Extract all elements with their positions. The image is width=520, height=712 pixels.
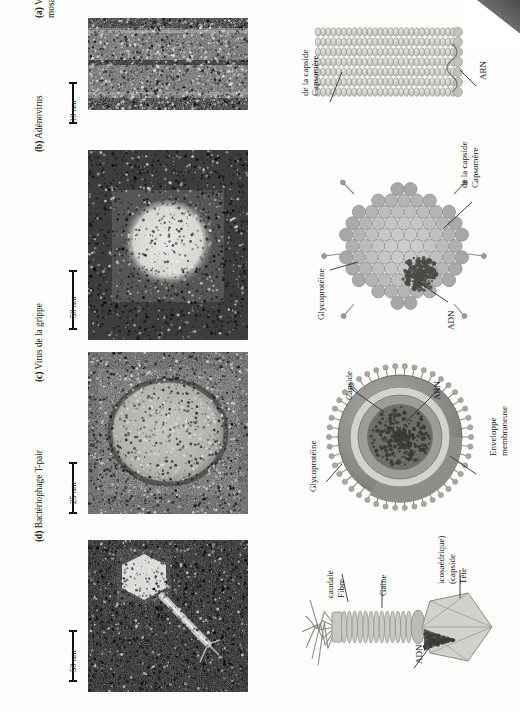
figure-page: Figure 47.2 (a) Virus de la mosaïque du …: [0, 0, 520, 712]
panel-letter-c: (c): [34, 372, 44, 382]
panel-letter-a: (a): [34, 7, 44, 18]
scale-bar-b-text: 50 nm: [68, 296, 78, 318]
micrograph-a: [88, 18, 248, 110]
diagram-a-tmv: [300, 14, 500, 124]
diagram-b-label-capsomere-line2: de la capside: [459, 142, 469, 188]
panel-label-b: (b) Adénovirus: [34, 95, 45, 152]
diagram-b-label-adn: ADN: [446, 311, 456, 331]
diagram-d-label-tete-line3: icosaédrique): [436, 536, 446, 584]
panel-letter-b: (b): [34, 141, 44, 152]
scale-bar-a-text: 10 nm: [68, 100, 78, 122]
diagram-d-label-tete-line2: (capside: [447, 554, 457, 584]
diagram-c-label-enveloppe-line2: membraneuse: [499, 406, 509, 456]
diagram-c-label-capside: Capside: [344, 371, 354, 400]
diagram-a-label-capsomere-line1: Capsomère: [310, 56, 320, 97]
panel-label-c: (c) Virus de la grippe: [34, 303, 45, 382]
panel-title-c: Virus de la grippe: [34, 303, 44, 369]
micrograph-c: [88, 352, 248, 514]
diagram-c-label-enveloppe-line1: Enveloppe: [488, 418, 498, 457]
diagram-c-label-arn: ARN: [432, 381, 442, 400]
micrograph-d: [88, 540, 248, 692]
panel-label-d: (d) Bactériophage T-pair: [34, 450, 45, 542]
diagram-c-influenza: [300, 352, 500, 522]
panel-title-a-line1: Virus de la: [34, 0, 44, 5]
diagram-c-label-glycoproteine: Glycoprotéine: [308, 441, 318, 492]
diagram-d-bacteriophage: [296, 540, 510, 710]
diagram-d-label-gaine: Gaine: [378, 575, 388, 597]
panel-title-b: Adénovirus: [34, 95, 44, 138]
panel-letter-d: (d): [34, 531, 44, 542]
diagram-d-label-fibre-line1: Fibre: [336, 579, 346, 598]
micrograph-b: [88, 150, 248, 340]
diagram-d-label-adn: ADN: [414, 645, 424, 665]
panel-label-a: (a) Virus de la: [34, 0, 45, 18]
scale-bar-d-text: 50 nm: [68, 650, 78, 672]
panel-title-a-line2: mosaïque du Tabac: [46, 0, 57, 18]
diagram-b-label-glycoproteine: Glycoprotéine: [316, 269, 326, 320]
scale-bar-c-text: 25 nm: [68, 482, 78, 504]
diagram-d-label-fibre-line2: caudale: [325, 571, 335, 598]
diagram-d-label-tete-line1: Tête: [458, 568, 468, 584]
diagram-b-label-capsomere-line1: Capsomère: [470, 148, 480, 189]
diagram-a-label-capsomere-line2: de la capside: [300, 50, 310, 96]
diagram-a-label-arn: ARN: [478, 61, 488, 80]
panel-title-d: Bactériophage T-pair: [34, 450, 44, 528]
